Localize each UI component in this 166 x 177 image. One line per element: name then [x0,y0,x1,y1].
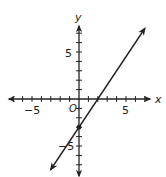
y-tick-label-5: 5 [65,47,72,60]
x-tick-label-5: 5 [122,104,129,117]
x-axis-label: x [154,93,162,106]
y-intercept-point [77,125,82,130]
coordinate-plane: x y O −5 5 5 −5 [0,0,166,177]
origin-label: O [69,103,77,114]
x-tick-label-neg5: −5 [24,104,40,117]
y-axis-label: y [74,11,82,24]
